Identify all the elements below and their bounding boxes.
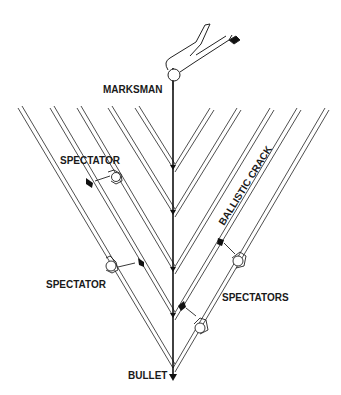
spectator-upper-label: SPECTATOR [60, 155, 121, 166]
spectator-right-upper-figure-icon [217, 238, 246, 268]
marksman-figure-icon [166, 24, 240, 90]
spectator-right-lower-figure-icon [178, 301, 208, 334]
marksman-label: MARKSMAN [103, 84, 162, 95]
spectator-lower-label: SPECTATOR [46, 279, 107, 290]
spectator-lower-figure-icon [106, 256, 144, 273]
bullet-label: BULLET [128, 370, 167, 381]
spectators-label: SPECTATORS [222, 292, 289, 303]
spectator-upper-figure-icon [86, 170, 122, 188]
ballistic-crack-label: BALLISTIC CRACK [216, 143, 274, 227]
shock-wave-diagram: MARKSMAN SPECTATOR SPECTATOR SPECTATORS … [0, 0, 341, 395]
